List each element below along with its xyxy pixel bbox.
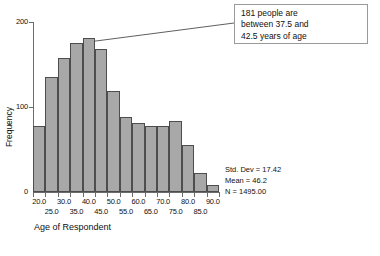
histogram-bar [157, 126, 169, 192]
histogram-bar [107, 91, 119, 192]
histogram-bar [33, 126, 45, 192]
histogram-bar [83, 38, 95, 192]
y-tick-0: 0 [0, 187, 28, 196]
callout-line-2: between 37.5 and [241, 19, 362, 30]
y-tick-100: 100 [0, 102, 28, 111]
x-tick-label: 20.0 [32, 197, 46, 206]
x-tick-label: 25.0 [45, 207, 59, 216]
stat-n: N = 1495.00 [225, 186, 345, 197]
x-tick-label: 55.0 [119, 207, 133, 216]
x-tick-label: 35.0 [69, 207, 83, 216]
statistics-block: Std. Dev = 17.42 Mean = 46.2 N = 1495.00 [225, 164, 345, 197]
x-tick-label: 30.0 [57, 197, 71, 206]
histogram-bars [33, 22, 219, 192]
histogram-bar [169, 121, 181, 192]
y-tick-0-label: 0 [24, 187, 28, 196]
histogram-bar [194, 173, 206, 192]
x-tick-label: 75.0 [169, 207, 183, 216]
x-tick-label: 80.0 [181, 197, 195, 206]
x-tick-label: 70.0 [156, 197, 170, 206]
x-tick-label: 60.0 [131, 197, 145, 206]
stat-mean: Mean = 46.2 [225, 175, 345, 186]
histogram-bar [95, 49, 107, 192]
histogram-bar [45, 77, 57, 192]
histogram-bar [207, 185, 219, 192]
histogram-bar [145, 126, 157, 192]
plot-area [33, 22, 219, 192]
x-axis-title: Age of Respondent [34, 222, 111, 232]
x-tick-label: 45.0 [94, 207, 108, 216]
y-tick-200: 200 [0, 17, 28, 26]
x-tick-label: 65.0 [144, 207, 158, 216]
x-tick-label: 90.0 [206, 197, 220, 206]
x-tick-label: 85.0 [193, 207, 207, 216]
histogram-bar [120, 117, 132, 192]
histogram-bar [70, 43, 82, 192]
y-tick-100-label: 100 [16, 102, 28, 111]
x-tick-label: 40.0 [82, 197, 96, 206]
x-tick-labels-row-2: 25.035.045.055.065.075.085.0 [0, 207, 380, 218]
callout-line-3: 42.5 years of age [241, 31, 362, 42]
histogram-bar [132, 123, 144, 192]
callout-annotation-box: 181 people are between 37.5 and 42.5 yea… [234, 4, 368, 44]
stat-std-dev: Std. Dev = 17.42 [225, 164, 345, 175]
y-tick-200-label: 200 [16, 17, 28, 26]
x-tick-label: 50.0 [107, 197, 121, 206]
histogram-bar [58, 58, 70, 192]
callout-line-1: 181 people are [241, 8, 362, 19]
histogram-bar [182, 145, 194, 192]
